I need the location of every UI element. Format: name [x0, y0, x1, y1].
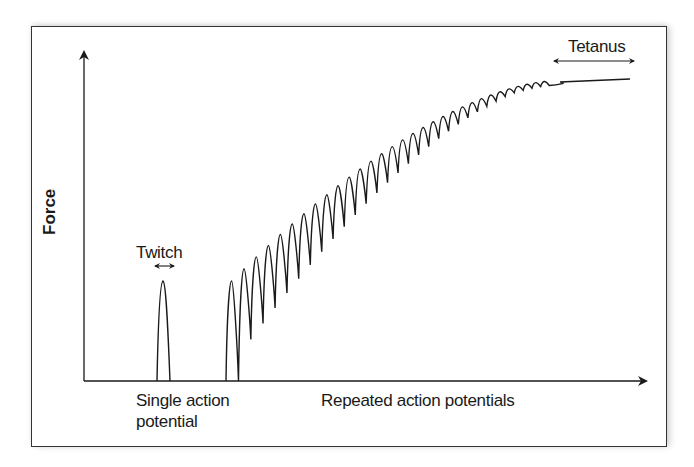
single-twitch-curve — [157, 281, 170, 381]
single-action-label-line1: Single action — [136, 390, 229, 411]
twitch-label: Twitch — [136, 242, 182, 263]
single-action-label-line2: potential — [136, 411, 198, 432]
y-axis-label: Force — [40, 189, 60, 235]
summation-curve — [226, 79, 630, 381]
repeated-action-label: Repeated action potentials — [321, 390, 515, 411]
tetanus-label: Tetanus — [568, 36, 625, 57]
